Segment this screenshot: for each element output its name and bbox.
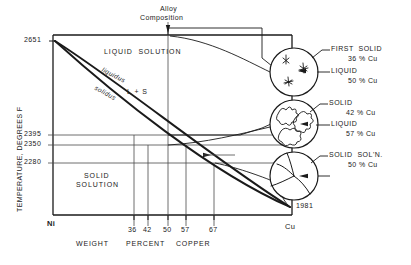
- region-label-liquid-solution: LIQUID SOLUTION: [104, 48, 181, 55]
- callout-first-solid-value: 36 % Cu: [348, 55, 378, 62]
- region-label-solid-line1: SOLID: [84, 172, 110, 179]
- y-tick-2651: 2651: [24, 36, 41, 43]
- x-axis-title-copper: COPPER: [176, 240, 210, 247]
- callout-solid-label: SOLID: [329, 99, 353, 106]
- x-tick-42: 42: [143, 226, 152, 233]
- x-tick-67: 67: [209, 226, 218, 233]
- y-axis-title: TEMPERATURE, DEGREES F: [16, 106, 23, 212]
- x-tick-marks: [134, 215, 214, 220]
- y-tick-2350: 2350: [24, 140, 41, 147]
- composition-rules: [134, 35, 214, 226]
- corner-temperature-1981: 1981: [296, 202, 313, 209]
- tie-line-rules: [48, 135, 292, 163]
- arrow-alloy-composition: [166, 25, 170, 33]
- x-end-label-ni: Ni: [47, 219, 55, 228]
- inset-circle-solid-solution: [270, 152, 318, 200]
- region-label-two-phase: L + S: [127, 88, 148, 95]
- alloy-composition-title-line1: Alloy: [160, 5, 177, 12]
- callout-first-solid-label: FIRST SOLID: [331, 45, 382, 52]
- callout-liquid-2-label: LIQUID: [331, 120, 357, 127]
- y-tick-2280: 2280: [24, 158, 41, 165]
- x-tick-57: 57: [181, 226, 190, 233]
- x-axis-title-percent: PERCENT: [126, 240, 165, 247]
- y-tick-2395: 2395: [24, 130, 41, 137]
- x-tick-36: 36: [128, 226, 137, 233]
- callout-solid-solution-value: 50 % Cu: [348, 161, 378, 168]
- inset-circle-first-solid: [270, 48, 318, 96]
- x-axis-title-weight: WEIGHT: [76, 240, 109, 247]
- phase-diagram-figure: Alloy Composition TEMPERATURE, DEGREES F…: [0, 0, 411, 265]
- callout-liquid-2-value: 57 % Cu: [346, 130, 376, 137]
- callout-solid-solution-label: SOLID SOL'N.: [329, 151, 383, 158]
- callout-liquid-1-label: LIQUID: [331, 67, 357, 74]
- x-tick-50: 50: [163, 226, 172, 233]
- alloy-composition-title-line2: Composition: [140, 14, 183, 21]
- callout-solid-value: 42 % Cu: [346, 109, 376, 116]
- callout-liquid-1-value: 50 % Cu: [348, 77, 378, 84]
- x-end-label-cu: Cu: [285, 222, 295, 231]
- region-label-solid-line2: SOLUTION: [76, 181, 119, 188]
- inset-circle-solid-liquid: [270, 100, 318, 148]
